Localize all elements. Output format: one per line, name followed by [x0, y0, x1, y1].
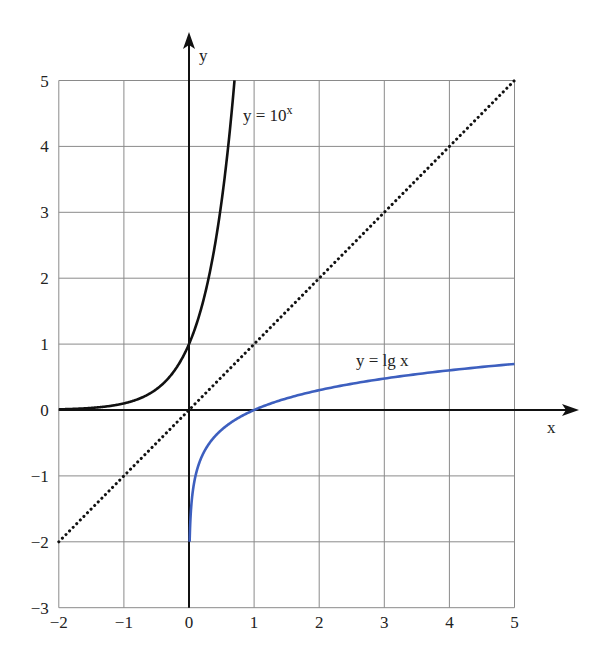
x-tick-label: 2 — [315, 613, 324, 632]
y-tick-label: 4 — [40, 137, 49, 156]
y-tick-label: 3 — [40, 203, 49, 222]
x-tick-label: −2 — [50, 613, 68, 632]
grid — [59, 81, 515, 608]
exp-curve-label: y = 10x — [243, 103, 293, 125]
curves — [59, 80, 515, 541]
x-axis-label: x — [547, 418, 556, 437]
log-curve — [190, 364, 515, 542]
log-curve-label: y = lg x — [356, 351, 409, 370]
x-tick-label: 0 — [185, 613, 194, 632]
y-tick-label: 5 — [40, 72, 49, 91]
y-tick-label: −1 — [31, 467, 49, 486]
x-tick-label: −1 — [115, 613, 133, 632]
y-tick-label: 2 — [40, 269, 49, 288]
function-graph: −2−1012345543210−1−2−3 y x y = 10x y = l… — [0, 0, 600, 665]
x-tick-label: 5 — [510, 613, 519, 632]
identity-line — [59, 81, 515, 542]
y-axis-label: y — [199, 46, 208, 65]
y-tick-label: 0 — [40, 401, 49, 420]
y-tick-label: −2 — [31, 533, 49, 552]
exp-curve — [59, 80, 235, 409]
y-tick-label: −3 — [31, 599, 49, 618]
x-tick-label: 1 — [250, 613, 259, 632]
x-tick-label: 4 — [445, 613, 454, 632]
y-tick-label: 1 — [40, 335, 49, 354]
tick-labels: −2−1012345543210−1−2−3 — [31, 72, 519, 632]
x-tick-label: 3 — [380, 613, 389, 632]
